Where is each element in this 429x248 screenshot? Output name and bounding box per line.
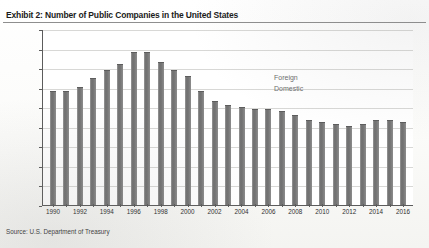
chart-bar bbox=[117, 64, 123, 206]
x-axis-label bbox=[114, 208, 127, 220]
legend-item-domestic: Domestic bbox=[274, 83, 303, 94]
x-axis-tick bbox=[255, 204, 256, 207]
bar-slot bbox=[167, 30, 180, 206]
exhibit-page: Exhibit 2: Number of Public Companies in… bbox=[0, 0, 429, 248]
x-axis-tick bbox=[107, 204, 108, 207]
chart-bar bbox=[212, 101, 218, 206]
x-axis-tick bbox=[93, 204, 94, 207]
x-axis-tick bbox=[201, 204, 202, 207]
bar-slot bbox=[356, 30, 369, 206]
bar-slot bbox=[302, 30, 315, 206]
chart-bar bbox=[360, 124, 366, 206]
page-title: Exhibit 2: Number of Public Companies in… bbox=[0, 10, 429, 20]
bar-slot bbox=[181, 30, 194, 206]
chart-bar bbox=[306, 120, 312, 206]
x-axis-tick bbox=[161, 204, 162, 207]
chart-bar bbox=[225, 105, 231, 206]
bar-slot bbox=[59, 30, 72, 206]
x-axis-label bbox=[329, 208, 342, 220]
bar-slot bbox=[46, 30, 59, 206]
x-axis-tick bbox=[309, 204, 310, 207]
legend-item-foreign: Foreign bbox=[274, 72, 303, 83]
bar-slot bbox=[370, 30, 383, 206]
bar-slot bbox=[208, 30, 221, 206]
x-axis-tick bbox=[390, 204, 391, 207]
chart-bar bbox=[239, 107, 245, 206]
x-axis-tick bbox=[120, 204, 121, 207]
chart-bar bbox=[279, 111, 285, 206]
bar-slot bbox=[100, 30, 113, 206]
x-axis-label: 2010 bbox=[315, 208, 329, 220]
x-axis-label bbox=[141, 208, 154, 220]
bar-slot bbox=[127, 30, 140, 206]
chart-bar bbox=[292, 115, 298, 206]
chart-bar bbox=[131, 52, 137, 206]
chart-bar bbox=[104, 70, 110, 206]
source-note: Source: U.S. Department of Treasury bbox=[6, 228, 110, 235]
x-axis-label: 2002 bbox=[208, 208, 222, 220]
x-axis-tick bbox=[282, 204, 283, 207]
x-axis-label: 1998 bbox=[154, 208, 168, 220]
chart-bar bbox=[158, 62, 164, 206]
chart-bar bbox=[373, 120, 379, 206]
chart-bar bbox=[198, 91, 204, 206]
chart-bar bbox=[252, 109, 258, 206]
x-axis-label: 2006 bbox=[261, 208, 275, 220]
exhibit-header: Exhibit 2: Number of Public Companies in… bbox=[0, 10, 429, 23]
x-axis-tick bbox=[403, 204, 404, 207]
x-axis-labels: 1990199219941996199820002002200420062008… bbox=[42, 208, 413, 220]
x-axis-tick bbox=[336, 204, 337, 207]
chart-bar bbox=[90, 78, 96, 206]
chart-bar bbox=[346, 126, 352, 206]
chart-bar bbox=[387, 120, 393, 206]
bar-slot bbox=[86, 30, 99, 206]
x-axis-label bbox=[222, 208, 235, 220]
bar-slot bbox=[343, 30, 356, 206]
chart-canvas: 01,0002,0003,0004,0005,0006,0007,0008,00… bbox=[42, 30, 413, 206]
x-axis-tick bbox=[322, 204, 323, 207]
chart-bar bbox=[185, 76, 191, 206]
chart-bar bbox=[50, 91, 56, 206]
bar-slot bbox=[316, 30, 329, 206]
x-axis-label bbox=[168, 208, 181, 220]
x-axis-tick bbox=[268, 204, 269, 207]
chart-bar bbox=[63, 91, 69, 206]
x-axis-label: 2014 bbox=[369, 208, 383, 220]
bar-slot bbox=[397, 30, 410, 206]
x-axis-tick bbox=[134, 204, 135, 207]
x-axis-label bbox=[248, 208, 261, 220]
chart-bar bbox=[400, 122, 406, 206]
x-axis-label bbox=[60, 208, 73, 220]
bar-slot bbox=[113, 30, 126, 206]
bar-slot bbox=[154, 30, 167, 206]
chart-bar bbox=[333, 124, 339, 206]
bar-slot bbox=[248, 30, 261, 206]
chart-bar bbox=[265, 109, 271, 206]
bar-slot bbox=[194, 30, 207, 206]
x-axis-tick bbox=[66, 204, 67, 207]
chart-legend: Foreign Domestic bbox=[274, 72, 303, 94]
x-axis-label bbox=[87, 208, 100, 220]
bar-slot bbox=[289, 30, 302, 206]
x-axis-label: 2008 bbox=[288, 208, 302, 220]
x-axis-label bbox=[275, 208, 288, 220]
title-divider bbox=[3, 22, 426, 23]
x-axis-tick bbox=[349, 204, 350, 207]
chart-bar bbox=[144, 52, 150, 206]
x-axis-tick bbox=[363, 204, 364, 207]
x-axis-tick bbox=[228, 204, 229, 207]
chart-bars bbox=[42, 30, 413, 206]
x-axis-tick bbox=[241, 204, 242, 207]
chart-plot-area: 01,0002,0003,0004,0005,0006,0007,0008,00… bbox=[42, 30, 413, 206]
x-axis-label: 2016 bbox=[396, 208, 410, 220]
x-axis-label: 1992 bbox=[73, 208, 87, 220]
x-axis-tick bbox=[174, 204, 175, 207]
x-axis-label: 1996 bbox=[127, 208, 141, 220]
x-axis-label: 1994 bbox=[100, 208, 114, 220]
x-axis-label: 1990 bbox=[46, 208, 60, 220]
chart-bar bbox=[171, 70, 177, 206]
bar-slot bbox=[383, 30, 396, 206]
x-axis-tick bbox=[188, 204, 189, 207]
chart-bar bbox=[77, 87, 83, 206]
x-axis-tick bbox=[147, 204, 148, 207]
